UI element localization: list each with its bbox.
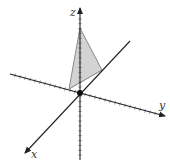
x-axis-label: x (31, 148, 38, 161)
coordinate-diagram: z y x (0, 0, 170, 165)
y-axis-label: y (158, 99, 166, 112)
y-axis (10, 74, 165, 116)
origin-point (77, 90, 83, 96)
z-axis-label: z (69, 6, 76, 19)
